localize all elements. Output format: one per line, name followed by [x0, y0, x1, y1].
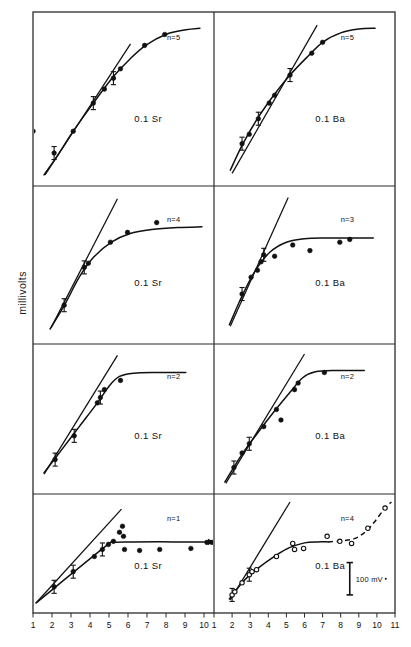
n-label: n=2	[167, 372, 180, 381]
data-point	[301, 546, 305, 550]
data-point	[292, 387, 297, 392]
x-tick-label: 4	[266, 620, 271, 630]
data-point	[189, 546, 194, 551]
data-point	[308, 248, 313, 253]
data-point	[121, 534, 126, 539]
x-tick-label: 2	[50, 620, 55, 630]
data-point	[274, 554, 278, 558]
panel-r2c2: 0.1 Ban=3	[229, 197, 373, 326]
n-label: n=4	[341, 514, 354, 523]
data-point	[120, 524, 125, 529]
x-tick-label: 5	[284, 620, 289, 630]
fit-curve	[229, 542, 328, 599]
panel-label: 0.1 Sr	[134, 430, 162, 441]
data-point	[108, 240, 113, 245]
data-point	[347, 237, 352, 242]
n-label: n=1	[167, 514, 180, 523]
data-point	[250, 569, 254, 573]
x-tick-label: 9	[183, 620, 188, 630]
data-point	[125, 230, 130, 235]
scale-bar-label: 100 mV	[356, 575, 383, 584]
panel-r4c1: 0.1 Srn=1	[36, 509, 214, 603]
fit-curve	[50, 227, 202, 329]
data-point	[338, 240, 343, 245]
x-tick-label: 3	[69, 620, 74, 630]
data-point	[118, 378, 123, 383]
data-point	[247, 132, 252, 137]
data-point	[102, 87, 107, 92]
data-point	[383, 506, 387, 510]
data-point	[292, 547, 296, 551]
data-point	[309, 51, 314, 56]
n-label: n=5	[167, 33, 180, 42]
data-point	[118, 67, 123, 72]
panel-label: 0.1 Ba	[315, 430, 345, 441]
data-point	[320, 40, 325, 45]
data-point	[290, 243, 295, 248]
panel-r1c2: 0.1 Ban=5	[230, 25, 375, 173]
data-point	[233, 590, 237, 594]
x-tick-label: 1	[212, 620, 217, 630]
data-point	[122, 547, 127, 552]
data-point	[52, 585, 57, 590]
x-tick-label: 6	[302, 620, 307, 630]
data-point	[261, 424, 266, 429]
data-point	[52, 151, 57, 156]
n-label: n=2	[341, 372, 354, 381]
data-point	[142, 43, 147, 48]
x-tick-label: 10	[372, 620, 382, 630]
x-tick-label: 7	[320, 620, 325, 630]
data-point	[157, 547, 162, 552]
data-point	[154, 220, 159, 225]
n-label: n=3	[341, 215, 354, 224]
data-point	[71, 569, 76, 574]
data-point	[205, 540, 210, 545]
x-tick-label: 4	[88, 620, 93, 630]
panel-r3c2: 0.1 Ban=2	[225, 354, 364, 483]
data-point	[272, 93, 277, 98]
fit-curve-dashed	[328, 502, 391, 542]
tangent-line	[232, 25, 317, 173]
x-tick-label: 8	[164, 620, 169, 630]
n-label: n=4	[167, 215, 180, 224]
stray-dot	[385, 578, 387, 580]
data-point	[279, 418, 284, 423]
data-point	[259, 260, 264, 265]
data-point	[247, 441, 252, 446]
panel-label: 0.1 Ba	[315, 113, 345, 124]
data-point	[240, 451, 245, 456]
fit-curve	[44, 28, 200, 175]
figure-container: millivolts 0.1 Srn=50.1 Ban=50.1 Srn=40.…	[0, 0, 411, 647]
data-point	[338, 539, 342, 543]
data-point	[240, 581, 244, 585]
x-tick-label: 8	[338, 620, 343, 630]
panel-label: 0.1 Sr	[134, 113, 162, 124]
panel-r2c1: 0.1 Srn=4	[50, 199, 202, 329]
data-point	[254, 567, 258, 571]
data-point	[98, 395, 103, 400]
data-point	[82, 265, 87, 270]
panel-label: 0.1 Ba	[315, 277, 345, 288]
x-axis: 123456789101234567891011	[31, 613, 400, 630]
data-point	[53, 457, 58, 462]
n-label: n=5	[341, 33, 354, 42]
data-point	[92, 554, 97, 559]
data-point	[325, 534, 329, 538]
data-point	[100, 547, 105, 552]
data-point	[255, 268, 260, 273]
data-point	[71, 129, 76, 134]
x-tick-label: 6	[126, 620, 131, 630]
panel-r1c1: 0.1 Srn=5	[31, 28, 200, 175]
data-point	[106, 542, 111, 547]
x-tick-label: 5	[107, 620, 112, 630]
data-point	[62, 303, 67, 308]
data-point	[249, 275, 254, 280]
data-point	[91, 101, 96, 106]
data-point	[291, 541, 295, 545]
x-tick-label: 7	[145, 620, 150, 630]
panel-r3c1: 0.1 Srn=2	[44, 355, 186, 474]
data-point	[111, 76, 116, 81]
data-point	[288, 73, 293, 78]
x-tick-label: 3	[248, 620, 253, 630]
data-point	[274, 407, 279, 412]
